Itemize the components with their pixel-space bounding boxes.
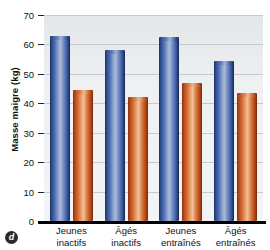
y-axis-tick-label: 20: [0, 162, 34, 163]
y-axis-tick-label: 60: [0, 44, 34, 45]
y-axis-tick-label: 50: [0, 74, 34, 75]
bar-blue-series-1: [105, 50, 125, 221]
panel-badge: d: [5, 231, 18, 244]
bar-blue-series-3: [214, 61, 234, 221]
category-label-3: Âgésentraînés: [202, 225, 269, 248]
plot-area: [44, 15, 263, 221]
y-axis-tick-label: 30: [0, 133, 34, 134]
gridline: [44, 44, 263, 45]
y-axis-tick: [38, 103, 44, 104]
bar-blue-series-0: [50, 36, 70, 221]
y-axis-tick: [38, 15, 44, 16]
y-axis-tick-label: 0: [0, 221, 34, 222]
bar-blue-series-2: [159, 37, 179, 221]
y-axis-tick: [38, 133, 44, 134]
y-axis-tick: [38, 162, 44, 163]
x-axis-baseline: [38, 221, 266, 224]
y-axis-tick: [38, 44, 44, 45]
y-axis-tick-label: 40: [0, 103, 34, 104]
y-axis-tick-label: 10: [0, 192, 34, 193]
bar-orange-series-2: [182, 83, 202, 221]
bar-orange-series-1: [128, 97, 148, 221]
y-axis-tick-label: 70: [0, 15, 34, 16]
lean-mass-bar-chart: Masse maigre (kg) 010203040506070 Jeunes…: [0, 0, 270, 250]
category-label-line2: entraînés: [202, 237, 269, 249]
y-axis-tick: [38, 74, 44, 75]
bar-orange-series-3: [237, 93, 257, 221]
category-label-line1: Âgés: [202, 225, 269, 237]
y-axis-title: Masse maigre (kg): [9, 40, 20, 180]
gridline: [44, 15, 263, 16]
y-axis-tick: [38, 192, 44, 193]
bar-orange-series-0: [73, 90, 93, 221]
